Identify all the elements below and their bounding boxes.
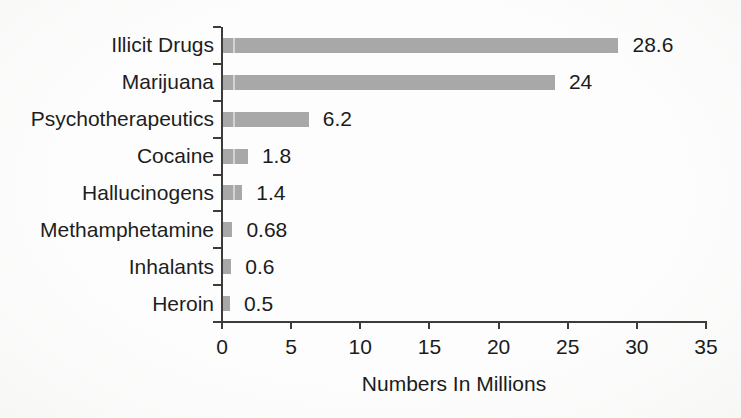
category-label: Inhalants: [0, 255, 214, 279]
category-label: Psychotherapeutics: [0, 107, 214, 131]
bar: [223, 149, 248, 164]
value-label: 1.4: [256, 181, 285, 205]
category-label: Heroin: [0, 292, 214, 316]
category-label: Hallucinogens: [0, 181, 214, 205]
value-label: 6.2: [323, 107, 352, 131]
y-axis-tick: [213, 321, 221, 323]
bar: [223, 38, 618, 53]
x-axis-tick: [221, 322, 223, 329]
bar-chart: Illicit Drugs28.6Marijuana24Psychotherap…: [0, 0, 741, 418]
value-label: 0.6: [245, 255, 274, 279]
scanned-page: Illicit Drugs28.6Marijuana24Psychotherap…: [0, 0, 741, 418]
x-axis-tick-label: 0: [192, 335, 252, 359]
y-axis-tick: [213, 284, 221, 286]
x-axis-tick: [567, 322, 569, 329]
bar: [223, 112, 309, 127]
y-axis-tick: [213, 100, 221, 102]
category-label: Methamphetamine: [0, 218, 214, 242]
y-axis-tick: [213, 26, 221, 28]
bar: [223, 75, 555, 90]
bar: [223, 259, 231, 274]
y-axis-tick: [213, 247, 221, 249]
y-axis-tick: [213, 137, 221, 139]
bar: [223, 222, 232, 237]
value-label: 0.68: [246, 218, 287, 242]
y-axis-line: [221, 27, 223, 329]
x-axis-tick: [428, 322, 430, 329]
y-axis-tick: [213, 210, 221, 212]
x-axis-tick: [359, 322, 361, 329]
x-axis-tick: [290, 322, 292, 329]
value-label: 28.6: [632, 33, 673, 57]
x-axis-tick-label: 20: [469, 335, 529, 359]
x-axis-tick: [636, 322, 638, 329]
x-axis-tick-label: 30: [607, 335, 667, 359]
x-axis-tick-label: 25: [538, 335, 598, 359]
value-label: 24: [569, 70, 592, 94]
value-label: 1.8: [262, 144, 291, 168]
x-axis-tick: [705, 322, 707, 329]
y-axis-tick: [213, 174, 221, 176]
category-label: Marijuana: [0, 70, 214, 94]
x-axis-tick-label: 5: [261, 335, 321, 359]
x-axis-tick-label: 15: [399, 335, 459, 359]
x-axis-tick-label: 10: [330, 335, 390, 359]
bar: [223, 296, 230, 311]
category-label: Illicit Drugs: [0, 33, 214, 57]
category-label: Cocaine: [0, 144, 214, 168]
x-axis-line: [221, 321, 707, 323]
x-axis-tick-label: 35: [676, 335, 736, 359]
bar: [223, 185, 242, 200]
x-axis-tick: [498, 322, 500, 329]
value-label: 0.5: [244, 292, 273, 316]
x-axis-title: Numbers In Millions: [362, 372, 546, 396]
y-axis-tick: [213, 63, 221, 65]
